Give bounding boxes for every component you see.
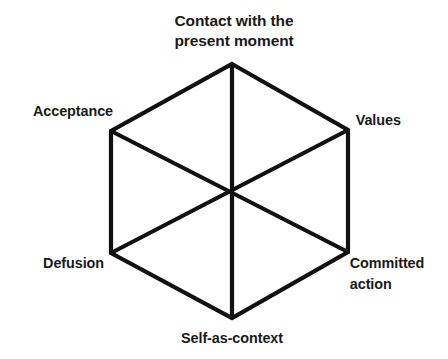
label-defusion: Defusion: [43, 253, 104, 273]
label-contact-line2: present moment: [154, 31, 314, 51]
label-committed-line2: action: [350, 273, 424, 294]
label-contact-with-the-present-moment: Contact with the present moment: [154, 11, 314, 51]
label-committed-action: Committed action: [350, 252, 424, 294]
label-contact-line1: Contact with the: [154, 11, 314, 31]
label-committed-line1: Committed: [350, 252, 424, 273]
label-acceptance: Acceptance: [33, 101, 113, 121]
label-values: Values: [356, 110, 401, 130]
hexagon-diagram: [0, 0, 448, 359]
hexaflex-figure: Contact with the present moment Acceptan…: [0, 0, 448, 359]
label-self-as-context: Self-as-context: [181, 328, 283, 348]
